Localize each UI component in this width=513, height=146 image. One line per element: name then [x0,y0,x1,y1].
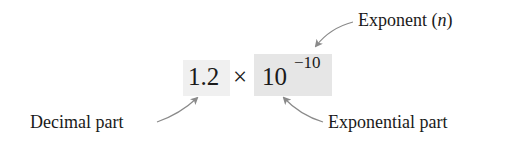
exponent-arrow-icon [316,22,353,46]
exponential-arrow-icon [284,98,323,122]
decimal-arrow-icon [157,98,197,122]
annotation-arrows [0,0,513,146]
